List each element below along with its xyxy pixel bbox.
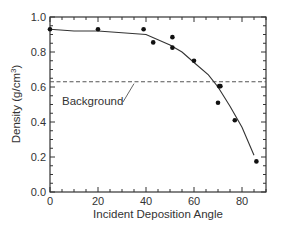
data-point	[96, 27, 101, 32]
data-point	[170, 35, 175, 40]
data-point	[254, 159, 259, 164]
y-tick-label: 0.2	[31, 151, 46, 163]
x-tick-label: 0	[47, 195, 53, 207]
density-vs-angle-chart: 020406080 0.00.20.40.60.81.0 Background …	[0, 0, 283, 230]
y-axis-label-close: )	[10, 65, 22, 69]
y-axis-label-main: Density (g/cm	[10, 73, 22, 143]
data-point	[216, 100, 221, 105]
y-tick-label: 0.8	[31, 46, 46, 58]
data-point	[48, 27, 53, 32]
data-point	[141, 27, 146, 32]
x-tick-label: 80	[236, 195, 248, 207]
x-tick-labels: 020406080	[47, 195, 248, 207]
x-tick-label: 60	[188, 195, 200, 207]
x-tick-label: 20	[92, 195, 104, 207]
background-annotation-arrow	[123, 84, 134, 102]
x-tick-label: 40	[140, 195, 152, 207]
y-tick-label: 1.0	[31, 11, 46, 23]
data-point	[218, 84, 223, 89]
data-point	[192, 58, 197, 63]
fit-curve	[50, 29, 254, 155]
y-tick-label: 0.0	[31, 186, 46, 198]
y-axis-label: Density (g/cm3)	[9, 65, 22, 144]
y-tick-label: 0.6	[31, 81, 46, 93]
data-point	[170, 45, 175, 50]
data-point	[233, 118, 238, 123]
y-tick-label: 0.4	[31, 116, 46, 128]
data-point	[151, 40, 156, 45]
y-tick-labels: 0.00.20.40.60.81.0	[31, 11, 46, 198]
x-axis-label: Incident Deposition Angle	[93, 208, 223, 220]
background-annotation-label: Background	[62, 95, 123, 107]
